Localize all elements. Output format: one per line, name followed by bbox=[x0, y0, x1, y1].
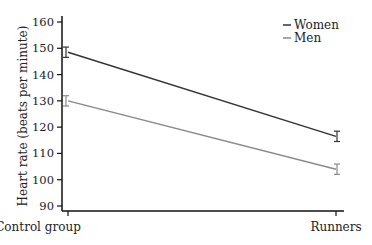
y-tick-label: 160 bbox=[32, 15, 54, 29]
x-tick-label: Control group bbox=[0, 220, 81, 234]
x-tick-label: Runners bbox=[310, 220, 361, 234]
y-tick-label: 130 bbox=[32, 94, 54, 108]
legend-label-men: Men bbox=[294, 31, 321, 45]
series-line-women bbox=[68, 52, 336, 136]
y-tick-label: 140 bbox=[32, 68, 54, 82]
y-tick-label: 110 bbox=[32, 146, 54, 160]
y-tick-label: 150 bbox=[32, 41, 54, 55]
y-tick-label: 120 bbox=[32, 120, 54, 134]
heart-rate-chart: 90100110120130140150160Control groupRunn… bbox=[0, 0, 372, 245]
series-line-men bbox=[68, 101, 336, 169]
y-tick-label: 100 bbox=[32, 173, 54, 187]
y-tick-label: 90 bbox=[39, 199, 54, 213]
legend-label-women: Women bbox=[294, 18, 339, 32]
y-axis-label: Heart rate (beats per minute) bbox=[16, 26, 30, 207]
